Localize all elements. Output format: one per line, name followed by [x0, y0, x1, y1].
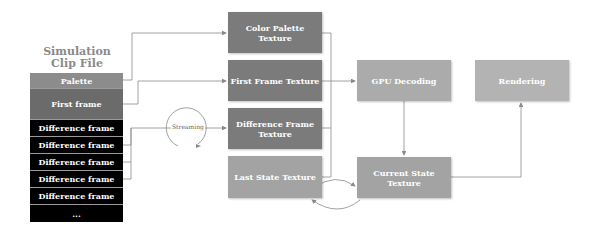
streaming-label: Streaming [171, 123, 205, 130]
first-frame-texture: First Frame Texture [228, 60, 322, 101]
color-palette-texture: Color Palette Texture [228, 12, 322, 53]
rendering-stage: Rendering [475, 60, 569, 101]
gpu-decoding-stage: GPU Decoding [357, 60, 451, 101]
current-state-texture: Current State Texture [357, 157, 451, 198]
difference-frame-texture: Difference Frame Texture [228, 108, 322, 149]
last-state-texture: Last State Texture [228, 156, 322, 198]
